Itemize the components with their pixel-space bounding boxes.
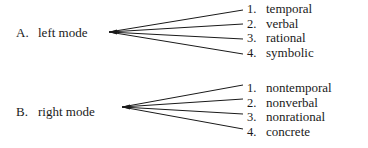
group-b-marker: B. <box>16 104 38 119</box>
branch-text: nonrational <box>266 109 325 124</box>
branch-item: 4.concrete <box>247 125 368 140</box>
branch-text: concrete <box>266 124 310 139</box>
branch-item: 1.nontemporal <box>247 81 368 96</box>
branch-text: nontemporal <box>266 80 332 95</box>
mode-attributes-diagram: A.left mode 1.temporal 2.verbal 3.ration… <box>0 0 368 148</box>
branch-number: 1. <box>247 2 266 17</box>
group-a-marker: A. <box>16 25 38 40</box>
branch-item: 2.verbal <box>247 17 368 32</box>
branch-number: 4. <box>247 125 266 140</box>
branch-number: 1. <box>247 81 266 96</box>
branch-item: 3.rational <box>247 31 368 46</box>
branch-text: rational <box>266 30 306 45</box>
branch-item: 4.symbolic <box>247 46 368 61</box>
branch-item: 2.nonverbal <box>247 96 368 111</box>
branch-text: nonverbal <box>266 95 318 110</box>
group-left-mode: A.left mode 1.temporal 2.verbal 3.ration… <box>0 0 368 74</box>
branch-text: symbolic <box>266 45 314 60</box>
group-a-branch-list: 1.temporal 2.verbal 3.rational 4.symboli… <box>247 2 368 60</box>
group-b-label: right mode <box>38 104 95 119</box>
branch-number: 2. <box>247 96 266 111</box>
branch-number: 4. <box>247 46 266 61</box>
branch-item: 3.nonrational <box>247 110 368 125</box>
branch-number: 2. <box>247 17 266 32</box>
group-a-root: A.left mode <box>16 25 87 40</box>
branch-item: 1.temporal <box>247 2 368 17</box>
group-b-root: B.right mode <box>16 104 95 119</box>
group-right-mode: B.right mode 1.nontemporal 2.nonverbal 3… <box>0 74 368 148</box>
branch-number: 3. <box>247 110 266 125</box>
group-b-branch-list: 1.nontemporal 2.nonverbal 3.nonrational … <box>247 81 368 139</box>
group-a-label: left mode <box>38 25 87 40</box>
branch-number: 3. <box>247 31 266 46</box>
branch-text: temporal <box>266 1 312 16</box>
branch-text: verbal <box>266 16 298 31</box>
